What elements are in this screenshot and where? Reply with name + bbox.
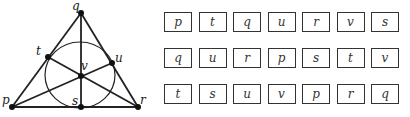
grid-cell: v	[337, 12, 365, 32]
point-label-s: s	[72, 94, 78, 108]
grid-cell: r	[302, 12, 330, 32]
point-label-v: v	[81, 59, 88, 73]
point-label-t: t	[36, 44, 41, 58]
grid-row: t s u v p r q	[164, 84, 406, 105]
grid-cell: q	[233, 12, 261, 32]
grid-cell: t	[164, 84, 192, 104]
grid-cell: s	[371, 12, 399, 32]
grid-cell: q	[164, 48, 192, 68]
grid-cell: v	[268, 84, 296, 104]
grid-cell: u	[268, 12, 296, 32]
grid-cell: q	[371, 84, 399, 104]
grid-cell: s	[302, 48, 330, 68]
grid-cell: p	[164, 12, 192, 32]
grid-cell: p	[268, 48, 296, 68]
grid-cell: s	[199, 84, 227, 104]
point-label-r: r	[140, 93, 147, 107]
grid-cell: u	[199, 48, 227, 68]
grid-cell: v	[371, 48, 399, 68]
grid-cell: r	[233, 48, 261, 68]
point-label-q: q	[72, 0, 80, 13]
point-label-u: u	[115, 51, 123, 65]
grid-row: q u r p s t v	[164, 48, 406, 69]
label-grid: p t q u r v s q u r p s t v t s u v p r …	[164, 12, 406, 117]
point-label-p: p	[2, 93, 10, 107]
grid-cell: r	[337, 84, 365, 104]
grid-cell: t	[337, 48, 365, 68]
fano-plane-diagram: q p r t u v s	[0, 0, 160, 117]
grid-cell: p	[302, 84, 330, 104]
grid-cell: u	[233, 84, 261, 104]
grid-row: p t q u r v s	[164, 12, 406, 33]
grid-cell: t	[199, 12, 227, 32]
